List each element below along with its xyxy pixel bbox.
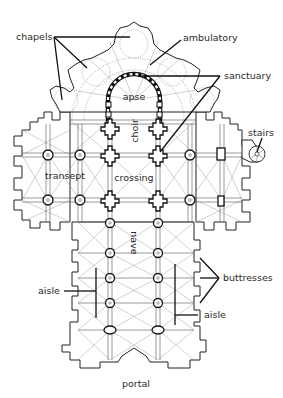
label-apse: apse xyxy=(123,91,146,102)
label-ambulatory: ambulatory xyxy=(183,32,238,43)
label-stairs: stairs xyxy=(248,127,274,138)
label-crossing: crossing xyxy=(114,172,153,183)
label-choir: choir xyxy=(129,119,140,143)
label-transept: transept xyxy=(45,170,85,181)
label-aisle-left: aisle xyxy=(38,285,60,296)
label-nave: nave xyxy=(129,231,140,254)
cathedral-floor-plan: chapels ambulatory sanctuary apse choir … xyxy=(0,0,283,398)
label-portal: portal xyxy=(122,378,150,389)
label-chapels: chapels xyxy=(16,31,53,42)
spiral-stairs xyxy=(242,140,265,162)
label-sanctuary: sanctuary xyxy=(224,70,271,81)
label-aisle-right: aisle xyxy=(204,309,226,320)
label-buttresses: buttresses xyxy=(223,272,273,283)
